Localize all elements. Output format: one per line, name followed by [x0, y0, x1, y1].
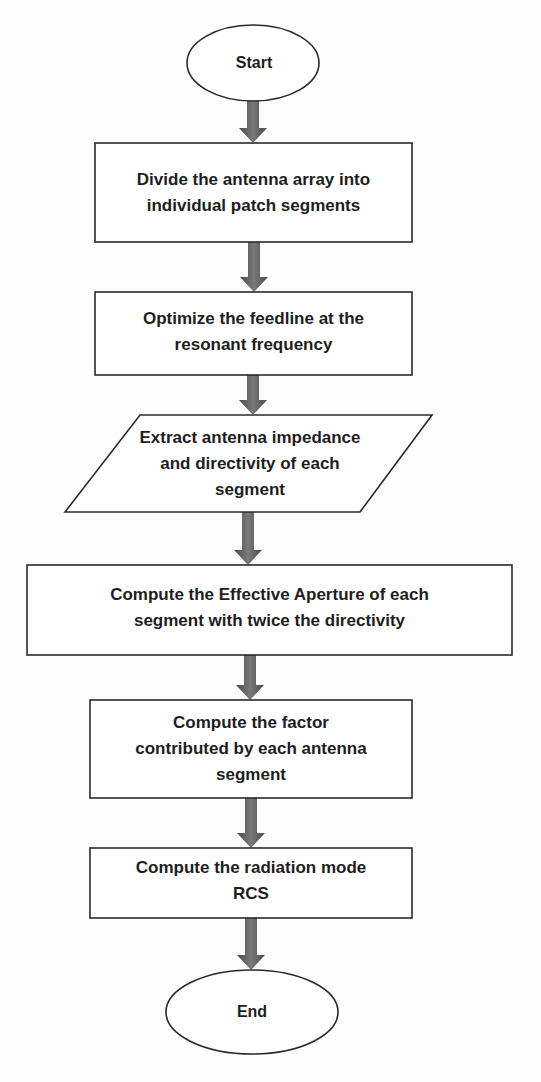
- start-label: Start: [236, 50, 272, 76]
- edge-step5-to-step6: [237, 798, 265, 848]
- process-optimize-feedline: Optimize the feedline at the resonant fr…: [95, 290, 412, 373]
- io-extract-impedance: Extract antenna impedance and directivit…: [100, 415, 400, 512]
- edge-step2-to-step3: [239, 375, 267, 415]
- edge-step6-to-end: [237, 918, 265, 970]
- step5-label: Compute the factor contributed by each a…: [135, 710, 366, 788]
- edge-step3-to-step4: [234, 512, 262, 565]
- step1-label: Divide the antenna array into individual…: [137, 167, 370, 219]
- process-factor-contribution: Compute the factor contributed by each a…: [90, 700, 412, 798]
- down-arrow-icon: [239, 375, 267, 415]
- down-arrow-icon: [236, 655, 264, 700]
- down-arrow-icon: [237, 798, 265, 848]
- end-terminal: End: [166, 970, 338, 1054]
- step2-label: Optimize the feedline at the resonant fr…: [143, 306, 364, 358]
- down-arrow-icon: [240, 242, 268, 292]
- process-effective-aperture: Compute the Effective Aperture of each s…: [27, 563, 512, 653]
- down-arrow-icon: [234, 512, 262, 565]
- end-label: End: [237, 999, 267, 1025]
- start-terminal: Start: [188, 25, 320, 101]
- edge-start-to-step1: [239, 100, 267, 143]
- process-divide-array: Divide the antenna array into individual…: [95, 143, 412, 242]
- process-radiation-mode-rcs: Compute the radiation mode RCS: [90, 846, 412, 916]
- down-arrow-icon: [237, 918, 265, 970]
- edge-step1-to-step2: [240, 242, 268, 292]
- step4-label: Compute the Effective Aperture of each s…: [110, 582, 429, 634]
- step3-label: Extract antenna impedance and directivit…: [139, 425, 360, 503]
- step6-label: Compute the radiation mode RCS: [136, 855, 366, 907]
- edge-step4-to-step5: [236, 655, 264, 700]
- down-arrow-icon: [239, 100, 267, 143]
